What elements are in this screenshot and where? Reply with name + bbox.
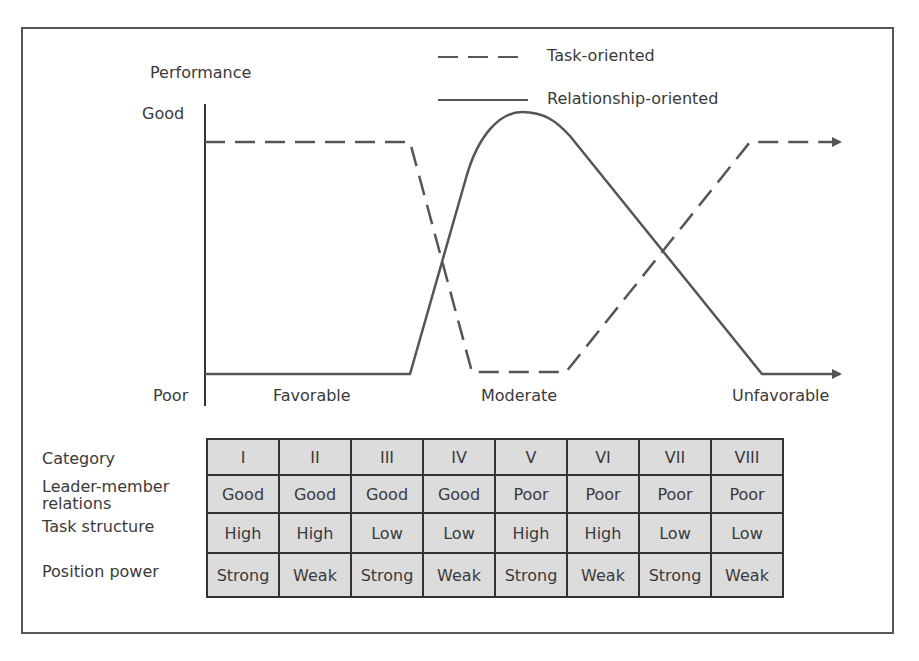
table-cell: Poor	[567, 475, 639, 513]
row-label-position-power: Position power	[42, 563, 159, 580]
task-oriented-line	[205, 142, 840, 372]
table-cell: Low	[639, 513, 711, 553]
table-cell: Weak	[711, 553, 783, 597]
table-cell: Poor	[639, 475, 711, 513]
table-cell: Strong	[495, 553, 567, 597]
table-row-position-power: Strong Weak Strong Weak Strong Weak Stro…	[207, 553, 783, 597]
table-cell: Poor	[495, 475, 567, 513]
table-cell: Weak	[567, 553, 639, 597]
table-cell: V	[495, 439, 567, 475]
table-cell: III	[351, 439, 423, 475]
table-cell: Weak	[279, 553, 351, 597]
table-cell: Strong	[207, 553, 279, 597]
table-row-leader-member: Good Good Good Good Poor Poor Poor Poor	[207, 475, 783, 513]
row-label-category: Category	[42, 450, 115, 467]
table-cell: VII	[639, 439, 711, 475]
table-cell: Low	[351, 513, 423, 553]
table-cell: II	[279, 439, 351, 475]
legend-task-label: Task-oriented	[547, 46, 655, 65]
row-label-lmr-2: relations	[42, 495, 111, 512]
table-cell: Good	[351, 475, 423, 513]
region-favorable: Favorable	[273, 386, 351, 405]
table-cell: High	[279, 513, 351, 553]
row-label-lmr-1: Leader-member	[42, 478, 169, 495]
table-cell: High	[567, 513, 639, 553]
table-cell: I	[207, 439, 279, 475]
table-row-category: I II III IV V VI VII VIII	[207, 439, 783, 475]
table-cell: IV	[423, 439, 495, 475]
table-cell: Strong	[639, 553, 711, 597]
table-cell: Low	[711, 513, 783, 553]
table-cell: Strong	[351, 553, 423, 597]
table-cell: Poor	[711, 475, 783, 513]
region-moderate: Moderate	[481, 386, 557, 405]
table-cell: Low	[423, 513, 495, 553]
relationship-oriented-line	[205, 112, 840, 374]
y-tick-poor: Poor	[153, 386, 188, 405]
table-cell: Weak	[423, 553, 495, 597]
table-cell: Good	[207, 475, 279, 513]
y-tick-good: Good	[142, 104, 184, 123]
table-cell: Good	[279, 475, 351, 513]
situation-table: I II III IV V VI VII VIII Good Good Good…	[206, 438, 784, 598]
legend-relationship-label: Relationship-oriented	[547, 89, 718, 108]
y-axis-title: Performance	[150, 63, 251, 82]
table-cell: Good	[423, 475, 495, 513]
table-cell: VI	[567, 439, 639, 475]
region-unfavorable: Unfavorable	[732, 386, 829, 405]
table-row-task-structure: High High Low Low High High Low Low	[207, 513, 783, 553]
table-cell: VIII	[711, 439, 783, 475]
table-cell: High	[495, 513, 567, 553]
table-cell: High	[207, 513, 279, 553]
row-label-task-structure: Task structure	[42, 518, 154, 535]
